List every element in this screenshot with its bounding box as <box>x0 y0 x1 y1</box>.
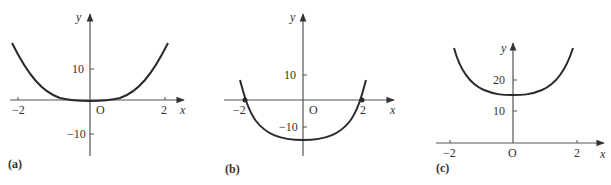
panel-c: −2 2 O x y 20 10 (c) <box>436 41 606 175</box>
x-tick-label: 2 <box>161 103 167 117</box>
y-tick-label: 10 <box>284 68 296 82</box>
x-tick-label: −2 <box>443 146 456 160</box>
x-tick-label: 2 <box>574 146 580 160</box>
y-tick-label: 20 <box>493 73 505 87</box>
x-axis-label: x <box>389 103 396 117</box>
root-point <box>360 98 365 103</box>
panel-caption: (a) <box>8 157 22 171</box>
y-axis-label: y <box>500 41 507 55</box>
y-axis-label: y <box>75 10 82 24</box>
y-axis-label: y <box>289 10 296 24</box>
origin-label: O <box>309 103 318 117</box>
origin-label: O <box>508 146 517 160</box>
panel-b: −2 2 O x y 10 −10 (b) <box>224 10 396 176</box>
y-tick-label: 10 <box>493 104 505 118</box>
figure: −2 2 O x y 10 −10 (a) −2 2 O x y 10 −10 … <box>0 0 611 185</box>
panel-caption: (b) <box>225 162 240 176</box>
x-axis-label: x <box>179 103 186 117</box>
x-tick-label: −2 <box>233 103 246 117</box>
y-tick-label: 10 <box>72 62 84 76</box>
panel-caption: (c) <box>436 161 449 175</box>
panel-a: −2 2 O x y 10 −10 (a) <box>8 10 186 171</box>
x-axis-label: x <box>599 147 606 161</box>
origin-label: O <box>96 103 105 117</box>
x-tick-label: 2 <box>360 103 366 117</box>
x-tick-label: −2 <box>12 103 25 117</box>
y-tick-label: −10 <box>279 120 298 134</box>
root-point <box>243 98 248 103</box>
y-tick-label: −10 <box>67 127 86 141</box>
